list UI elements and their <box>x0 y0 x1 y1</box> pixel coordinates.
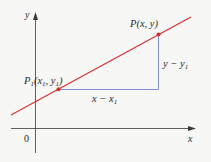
rise-label: y − y1 <box>162 58 188 71</box>
rise-label-main: y − y <box>162 58 185 69</box>
y-axis-label: y <box>24 9 30 20</box>
run-label: x − x1 <box>91 93 117 106</box>
point-p-label: P(x, y) <box>129 18 158 30</box>
x-axis-arrow-icon <box>188 126 196 131</box>
x-axis <box>11 126 196 131</box>
y-axis-arrow-icon <box>33 12 38 20</box>
x-axis-label: x <box>187 133 193 144</box>
line-diagram: y x 0 P(x, y) P1(x1, y1) x − x1 y − y1 <box>0 0 211 162</box>
run-label-main: x − x <box>91 93 114 104</box>
point-p1-label: P1(x1, y1) <box>23 75 63 88</box>
p1-coords-mid: , y <box>46 75 56 86</box>
p1-coords-close: ) <box>58 75 63 87</box>
rise-label-sub: 1 <box>185 63 189 71</box>
origin-label: 0 <box>24 133 29 144</box>
run-label-sub: 1 <box>114 98 118 106</box>
point-p <box>157 33 161 37</box>
